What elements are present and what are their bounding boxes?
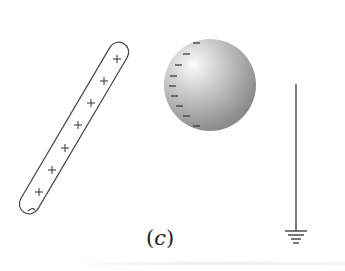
label-close-paren: ): [166, 226, 174, 250]
earth-ground-icon: [285, 231, 307, 243]
rod-outline: [16, 38, 133, 217]
label-open-paren: (: [146, 226, 154, 250]
rod-end-curl: [28, 209, 35, 211]
label-letter: c: [154, 226, 166, 250]
figure-label: (c): [146, 226, 174, 250]
rod-plus-charges: [35, 55, 121, 196]
scan-shadow: [60, 262, 345, 265]
sphere-body: [164, 39, 256, 131]
ground-connection: [285, 84, 307, 243]
charged-rod: [16, 38, 133, 217]
metal-sphere: [164, 39, 256, 131]
